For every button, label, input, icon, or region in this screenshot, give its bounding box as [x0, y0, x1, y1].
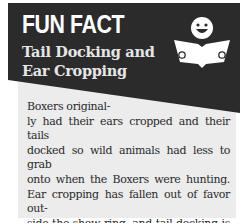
title-line-2: Ear Cropping: [22, 61, 155, 80]
fun-fact-body: Boxers original- ly had their ears cropp…: [27, 100, 230, 223]
body-line: side the show ring, and tail docking is: [27, 217, 230, 223]
body-line: ly had their ears cropped and their tail…: [27, 115, 230, 144]
title-line-1: Tail Docking and: [22, 42, 155, 61]
reading-mascot-icon: [170, 14, 234, 72]
body-line: Ear cropping has fallen out of favor out…: [27, 188, 230, 217]
body-line: Boxers original-: [27, 100, 230, 115]
fun-fact-label: FUN FACT: [22, 10, 124, 38]
body-line: docked so wild animals had less to grab: [27, 144, 230, 173]
fun-fact-title: Tail Docking and Ear Cropping: [22, 42, 155, 80]
body-line: onto when the Boxers were hunting.: [27, 173, 230, 188]
